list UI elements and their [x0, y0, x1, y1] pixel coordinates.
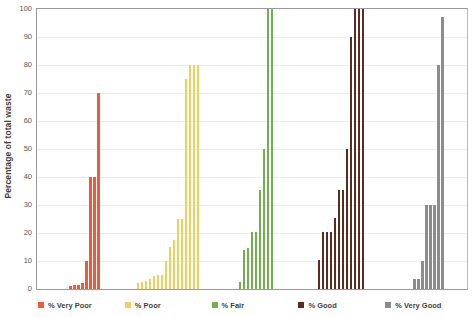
bar [243, 250, 245, 289]
bar [185, 79, 187, 289]
bar [157, 275, 159, 289]
y-axis-tick-label: 100 [19, 4, 32, 13]
y-axis-tick-label: 70 [24, 88, 32, 97]
bar [342, 190, 344, 289]
bar [322, 232, 324, 289]
legend-label: % Poor [135, 301, 161, 310]
bar [267, 9, 269, 289]
y-axis-tick-label: 60 [24, 116, 32, 125]
plot-area [36, 8, 468, 290]
bar [358, 9, 360, 289]
legend-label: % Very Good [395, 301, 441, 310]
bar [181, 219, 183, 289]
y-axis-tick-label: 0 [28, 284, 32, 293]
bar [413, 279, 415, 289]
bar [259, 190, 261, 289]
bar [421, 261, 423, 289]
bar [271, 9, 273, 289]
legend-swatch-icon [212, 302, 218, 308]
bar [417, 279, 419, 289]
bar [330, 232, 332, 289]
bar [149, 279, 151, 289]
bar [326, 232, 328, 289]
legend-swatch-icon [298, 302, 304, 308]
bar [433, 205, 435, 289]
y-axis-tick-label: 30 [24, 200, 32, 209]
bar [334, 218, 336, 289]
bar [193, 65, 195, 289]
y-axis-tick-label: 10 [24, 256, 32, 265]
bar [93, 177, 95, 289]
bar [362, 9, 364, 289]
bar-chart: Percentage of total waste 01020304050607… [0, 0, 474, 317]
legend-swatch-icon [385, 302, 391, 308]
bar [177, 219, 179, 289]
bar [73, 285, 75, 289]
legend-label: % Very Poor [48, 301, 92, 310]
bar [85, 261, 87, 289]
bar [165, 261, 167, 289]
bar [350, 37, 352, 289]
bar [145, 281, 147, 289]
bar [137, 283, 139, 289]
bar [197, 65, 199, 289]
bar [161, 275, 163, 289]
bars-layer [37, 9, 467, 289]
bar [263, 149, 265, 289]
bar [97, 93, 99, 289]
bar [169, 247, 171, 289]
legend: % Very Poor% Poor% Fair% Good% Very Good [36, 296, 470, 314]
bar [69, 286, 71, 289]
bar [77, 285, 79, 289]
y-axis-tick-label: 80 [24, 60, 32, 69]
bar [429, 205, 431, 289]
bar [173, 240, 175, 289]
y-axis-tick-labels: 0102030405060708090100 [12, 8, 34, 290]
bar [239, 282, 241, 289]
bar [89, 177, 91, 289]
bar [425, 205, 427, 289]
bar [81, 283, 83, 289]
y-axis-tick-label: 40 [24, 172, 32, 181]
bar [441, 17, 443, 289]
bar [354, 9, 356, 289]
legend-swatch-icon [125, 302, 131, 308]
legend-item[interactable]: % Very Poor [38, 301, 92, 310]
legend-label: % Fair [222, 301, 245, 310]
bar [153, 276, 155, 289]
legend-item[interactable]: % Fair [212, 301, 245, 310]
bar [437, 65, 439, 289]
legend-item[interactable]: % Very Good [385, 301, 441, 310]
bar [255, 232, 257, 289]
bar [318, 260, 320, 289]
y-axis-title-label: Percentage of total waste [2, 93, 12, 198]
y-axis-tick-label: 20 [24, 228, 32, 237]
bar [251, 232, 253, 289]
bar [346, 149, 348, 289]
legend-item[interactable]: % Poor [125, 301, 161, 310]
bar [189, 65, 191, 289]
y-axis-tick-label: 90 [24, 32, 32, 41]
legend-item[interactable]: % Good [298, 301, 336, 310]
y-axis-tick-label: 50 [24, 144, 32, 153]
bar [141, 282, 143, 289]
legend-label: % Good [308, 301, 336, 310]
bar [247, 248, 249, 289]
bar [338, 190, 340, 289]
legend-swatch-icon [38, 302, 44, 308]
